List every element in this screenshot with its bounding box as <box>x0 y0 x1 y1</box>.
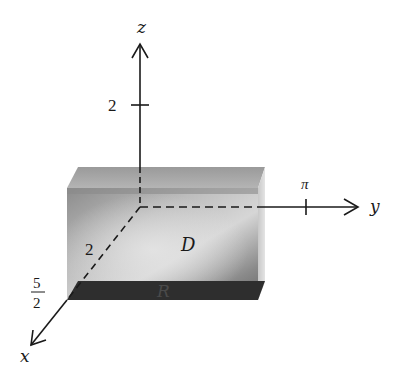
x-axis-label: x <box>20 346 30 366</box>
x-axis-tick-numerator: 5 <box>33 275 41 291</box>
y-axis-tick-label: π <box>301 176 309 192</box>
solid-top-band <box>67 188 258 194</box>
z-axis-tick-label: 2 <box>108 96 117 115</box>
base-region-label: R <box>156 281 170 301</box>
x-axis-inner-label: 2 <box>85 240 94 259</box>
y-axis-label: y <box>369 196 380 216</box>
solid-right-face <box>258 167 265 300</box>
z-axis-label: z <box>136 17 147 37</box>
solid-region-label: D <box>180 234 196 255</box>
diagram-canvas: z 2 y π x 2 5 2 D R <box>0 0 402 390</box>
x-axis-tick-denominator: 2 <box>33 295 41 311</box>
solid-top-face <box>67 167 265 188</box>
